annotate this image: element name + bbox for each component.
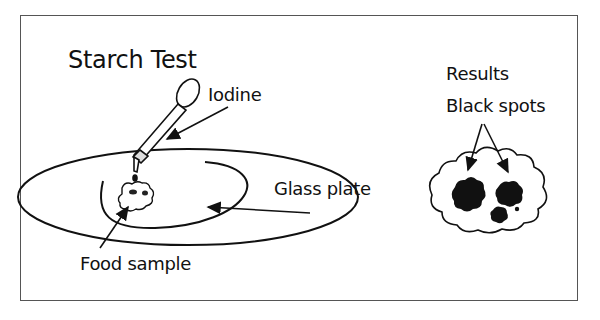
food-sample-outline [118,182,153,211]
food-spot [142,191,148,196]
food-sample [118,182,153,211]
black-spots-label: Black spots [446,95,545,116]
black-spot [515,207,519,211]
black-spot [452,177,486,212]
result-sample-outline [430,147,547,232]
black-spot [495,181,523,207]
food-spot [129,190,137,195]
black-spots-arrow-left [468,124,482,170]
dropper-tip [134,157,139,172]
result-sample [430,147,547,232]
plate-inner-rim [101,162,247,228]
iodine-drop [133,175,137,181]
iodine-label: Iodine [208,84,261,105]
results-heading: Results [446,63,509,84]
food-sample-label: Food sample [80,253,191,274]
diagram-title: Starch Test [68,46,197,74]
iodine-dropper [133,75,204,181]
black-spot [490,206,508,223]
glass-plate-label: Glass plate [274,178,371,199]
